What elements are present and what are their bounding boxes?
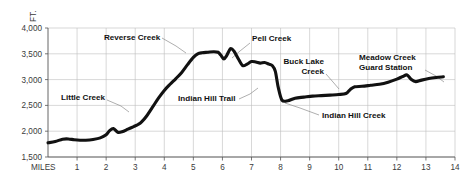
- x-tick-label: 1: [75, 163, 80, 172]
- annotation-line: Indian Hill Trail: [178, 94, 236, 103]
- annotation-indian-hill-creek: Indian Hill Creek: [322, 111, 386, 120]
- leader-line-indian-hill-creek: [285, 103, 319, 115]
- annotation-line: Pell Creek: [252, 34, 292, 43]
- annotation-indian-hill-trail: Indian Hill Trail: [178, 94, 236, 103]
- x-tick-label: 6: [220, 163, 225, 172]
- x-tick-label: 2: [104, 163, 109, 172]
- y-axis: [45, 28, 48, 157]
- x-tick-label: 9: [307, 163, 312, 172]
- x-axis-tick-labels: 1234567891011121314: [75, 163, 460, 172]
- annotation-buck-lake-creek: Buck LakeCreek: [284, 57, 325, 76]
- leader-line-indian-hill-trail: [239, 88, 258, 99]
- x-tick-label: 5: [191, 163, 196, 172]
- y-tick-label: 3,500: [22, 50, 43, 59]
- y-tick-label: 2,500: [22, 101, 43, 110]
- annotation-little-creek: Little Creek: [61, 93, 106, 102]
- x-tick-label: 11: [364, 163, 373, 172]
- annotation-line: Creek: [302, 67, 325, 76]
- y-tick-label: 4,000: [22, 24, 43, 33]
- x-axis-unit-label: MILES: [31, 163, 56, 172]
- leader-line-little-creek: [107, 100, 129, 112]
- annotation-line: Indian Hill Creek: [322, 111, 386, 120]
- y-tick-label: 2,000: [22, 127, 43, 136]
- y-tick-label: 3,000: [22, 76, 43, 85]
- gridlines-vertical: [77, 28, 455, 157]
- chart-canvas: 1,5002,0002,5003,0003,5004,000 123456789…: [0, 0, 465, 177]
- annotation-line: Meadow Creek: [359, 53, 416, 62]
- x-tick-label: 12: [392, 163, 402, 172]
- annotation-line: Guard Station: [359, 63, 413, 72]
- annotation-line: Reverse Creek: [104, 33, 161, 42]
- y-tick-label: 1,500: [22, 153, 43, 162]
- x-tick-label: 3: [133, 163, 138, 172]
- annotation-labels: Little CreekReverse CreekIndian Hill Tra…: [61, 33, 416, 120]
- leader-line-buck-lake-creek: [326, 74, 339, 89]
- x-tick-label: 8: [278, 163, 283, 172]
- y-axis-unit-label: FT.: [29, 10, 38, 22]
- x-tick-label: 14: [450, 163, 460, 172]
- x-tick-label: 10: [334, 163, 344, 172]
- annotation-meadow-creek-guard-station: Meadow CreekGuard Station: [359, 53, 416, 72]
- annotation-reverse-creek: Reverse Creek: [104, 33, 161, 42]
- elevation-profile-chart: 1,5002,0002,5003,0003,5004,000 123456789…: [0, 0, 465, 177]
- annotation-pell-creek: Pell Creek: [252, 34, 292, 43]
- annotation-line: Buck Lake: [284, 57, 325, 66]
- x-tick-label: 7: [249, 163, 254, 172]
- x-tick-label: 13: [421, 163, 431, 172]
- leader-line-reverse-creek: [162, 38, 186, 53]
- x-tick-label: 4: [162, 163, 167, 172]
- x-axis: [48, 157, 455, 161]
- y-axis-tick-labels: 1,5002,0002,5003,0003,5004,000: [22, 24, 43, 162]
- annotation-line: Little Creek: [61, 93, 106, 102]
